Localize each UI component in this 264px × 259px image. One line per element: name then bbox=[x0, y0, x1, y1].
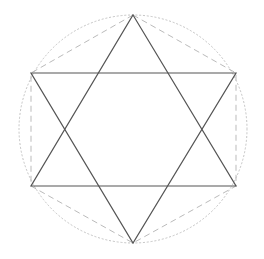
outer-hexagon bbox=[31, 15, 236, 243]
downward-triangle bbox=[31, 73, 236, 243]
circumscribed-circle bbox=[19, 15, 247, 243]
hexagram-diagram bbox=[0, 0, 264, 259]
upward-triangle bbox=[31, 15, 236, 186]
